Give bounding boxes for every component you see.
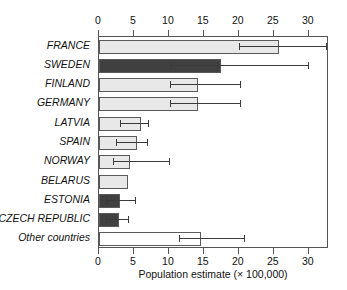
error-bar-norway: [113, 161, 169, 162]
x-tick-bottom-15: [203, 248, 204, 254]
error-bar-cap-estonia-low: [106, 197, 107, 204]
category-label-latvia: LATVIA: [0, 117, 90, 128]
x-tick-top-30: [308, 30, 309, 36]
error-bar-finland: [170, 84, 239, 85]
error-bar-cap-germany-low: [170, 100, 171, 107]
error-bar-estonia: [106, 200, 135, 201]
category-label-other-countries: Other countries: [0, 232, 90, 243]
x-tick-top-0: [98, 30, 99, 36]
category-label-belarus: BELARUS: [0, 175, 90, 186]
category-label-sweden: SWEDEN: [0, 59, 90, 70]
error-bar-cap-norway-high: [169, 158, 170, 165]
error-bar-germany: [170, 103, 239, 104]
x-tick-top-5: [133, 30, 134, 36]
x-tick-label-bottom-10: 10: [153, 255, 183, 267]
x-tick-top-10: [168, 30, 169, 36]
error-bar-cap-finland-high: [240, 81, 241, 88]
category-label-germany: GERMANY: [0, 97, 90, 108]
x-tick-label-bottom-0: 0: [83, 255, 113, 267]
error-bar-sweden: [170, 65, 308, 66]
error-bar-cap-czech-republic-low: [106, 216, 107, 223]
x-tick-label-bottom-15: 15: [188, 255, 218, 267]
bar-estonia: [99, 194, 120, 208]
category-label-estonia: ESTONIA: [0, 194, 90, 205]
error-bar-cap-sweden-low: [170, 62, 171, 69]
bar-other-countries: [99, 232, 201, 246]
x-tick-label-bottom-25: 25: [258, 255, 288, 267]
bar-belarus: [99, 175, 128, 189]
x-tick-bottom-5: [133, 248, 134, 254]
error-bar-latvia: [120, 123, 148, 124]
bar-finland: [99, 78, 198, 92]
error-bar-cap-sweden-high: [308, 62, 309, 69]
error-bar-cap-france-high: [326, 43, 327, 50]
x-tick-label-top-10: 10: [153, 14, 183, 26]
x-tick-bottom-30: [308, 248, 309, 254]
bar-spain: [99, 136, 137, 150]
bar-norway: [99, 155, 130, 169]
error-bar-cap-norway-low: [113, 158, 114, 165]
error-bar-other-countries: [179, 238, 244, 239]
x-tick-label-top-5: 5: [118, 14, 148, 26]
error-bar-cap-finland-low: [170, 81, 171, 88]
bar-chart: FRANCE SWEDEN FINLAND GERMANY LATVIA SPA…: [0, 0, 347, 290]
x-tick-label-top-20: 20: [223, 14, 253, 26]
error-bar-france: [239, 46, 326, 47]
x-tick-label-bottom-30: 30: [293, 255, 323, 267]
x-tick-top-15: [203, 30, 204, 36]
error-bar-cap-other-countries-low: [179, 235, 180, 242]
x-tick-bottom-10: [168, 248, 169, 254]
x-tick-top-20: [238, 30, 239, 36]
x-tick-bottom-25: [273, 248, 274, 254]
category-axis-labels: FRANCE SWEDEN FINLAND GERMANY LATVIA SPA…: [0, 36, 94, 248]
category-label-czech-republic: CZECH REPUBLIC: [0, 213, 90, 224]
x-axis-title: Population estimate (× 100,000): [98, 268, 328, 280]
bar-czech-republic: [99, 213, 119, 227]
plot-area: [98, 36, 328, 248]
x-tick-label-bottom-5: 5: [118, 255, 148, 267]
category-label-france: FRANCE: [0, 40, 90, 51]
x-tick-bottom-20: [238, 248, 239, 254]
x-tick-top-25: [273, 30, 274, 36]
error-bar-cap-latvia-low: [120, 120, 121, 127]
bar-germany: [99, 97, 198, 111]
error-bar-czech-republic: [106, 219, 128, 220]
error-bar-cap-spain-high: [147, 139, 148, 146]
error-bar-cap-spain-low: [116, 139, 117, 146]
error-bar-cap-germany-high: [240, 100, 241, 107]
x-tick-label-top-30: 30: [293, 14, 323, 26]
error-bar-cap-latvia-high: [148, 120, 149, 127]
error-bar-cap-other-countries-high: [244, 235, 245, 242]
category-label-norway: NORWAY: [0, 155, 90, 166]
x-tick-label-top-25: 25: [258, 14, 288, 26]
error-bar-cap-czech-republic-high: [128, 216, 129, 223]
error-bar-cap-france-low: [239, 43, 240, 50]
category-label-spain: SPAIN: [0, 136, 90, 147]
error-bar-cap-estonia-high: [135, 197, 136, 204]
error-bar-spain: [116, 142, 147, 143]
category-label-finland: FINLAND: [0, 78, 90, 89]
bar-sweden: [99, 59, 221, 73]
x-tick-label-bottom-20: 20: [223, 255, 253, 267]
bar-france: [99, 40, 279, 54]
x-tick-bottom-0: [98, 248, 99, 254]
x-tick-label-top-0: 0: [83, 14, 113, 26]
x-tick-label-top-15: 15: [188, 14, 218, 26]
